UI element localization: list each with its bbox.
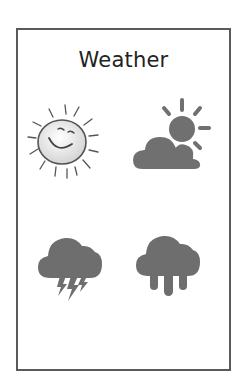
cloud-rain-icon [120,212,220,312]
sun-smile-icon [12,92,112,192]
sunny-icon[interactable] [12,92,112,192]
sun-behind-cloud-icon [124,92,224,192]
rain-icon[interactable] [120,212,220,312]
thunderstorm-icon[interactable] [18,212,118,312]
partly-cloudy-icon[interactable] [124,92,224,192]
weather-card: Weather [16,28,231,371]
cloud-lightning-icon [18,212,118,312]
card-title: Weather [18,48,229,72]
